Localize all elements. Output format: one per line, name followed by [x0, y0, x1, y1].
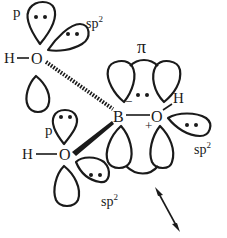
- bottom-hydrogen-label: H: [22, 146, 33, 162]
- bottom-oxygen-group: p H O sp2: [22, 110, 118, 209]
- bottom-oxygen-label: O: [59, 146, 71, 163]
- lone-pair-dot: [59, 115, 63, 119]
- lone-pair-dot: [98, 173, 102, 177]
- plus-charge: +: [145, 118, 152, 133]
- right-oxygen-sp2-lobe: [168, 114, 210, 137]
- pi-label: π: [137, 37, 146, 57]
- right-hydrogen-label: H: [173, 90, 184, 106]
- pi-overlap-top: [130, 60, 158, 66]
- minus-charge: −: [125, 94, 132, 109]
- lone-pair-dot: [75, 32, 79, 36]
- right-oxygen-label: O: [151, 108, 163, 125]
- lone-pair-dot: [68, 115, 72, 119]
- top-oxygen-sp2-lobe: [48, 24, 89, 51]
- top-oxygen-p-lobe-down: [26, 76, 49, 112]
- lone-pair-dot: [89, 173, 93, 177]
- lone-pair-dot: [185, 123, 189, 127]
- right-oxygen-p-lobe-down: [150, 126, 173, 168]
- lone-pair-dot: [194, 123, 198, 127]
- pi-overlap-bottom: [126, 166, 158, 174]
- lone-pair-dot: [43, 15, 47, 19]
- lone-pair-dot: [66, 32, 70, 36]
- right-oh-bond: [163, 104, 172, 110]
- top-oxygen-sp2-label: sp2: [86, 14, 103, 31]
- right-oxygen-sp2-label: sp2: [194, 140, 211, 157]
- boron-label: B: [113, 108, 124, 125]
- top-oxygen-p-lobe-up: [28, 2, 55, 44]
- top-hydrogen-label: H: [4, 50, 15, 66]
- boron-oxygen-pi-group: π − B O + H sp2: [107, 37, 211, 174]
- top-oxygen-group: p sp2 H O: [4, 2, 103, 112]
- boron-p-lobe-down: [107, 126, 132, 168]
- lone-pair-dot: [34, 15, 38, 19]
- hashed-bond-top-oxygen-to-boron: [46, 62, 113, 109]
- bottom-oxygen-p-lobe-up: [53, 110, 77, 144]
- bottom-oxygen-sp2-label: sp2: [101, 192, 118, 209]
- top-oxygen-label: O: [31, 50, 43, 67]
- top-oxygen-p-label: p: [13, 4, 21, 20]
- bottom-oxygen-p-label: p: [45, 122, 53, 138]
- bottom-oxygen-sp2-lobe: [76, 158, 109, 183]
- lone-pair-dot: [145, 93, 149, 97]
- lone-pair-dot: [136, 93, 140, 97]
- boron-hydroxide-orbital-diagram: p sp2 H O π − B O + H sp2: [0, 0, 227, 238]
- double-headed-arrow: [155, 187, 180, 232]
- bottom-oxygen-p-lobe-down: [54, 166, 79, 206]
